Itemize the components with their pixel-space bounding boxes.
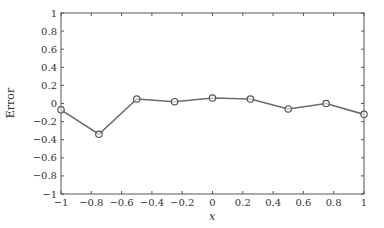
y-tick-label: 0.8 xyxy=(41,26,57,37)
data-point-marker xyxy=(323,100,329,106)
x-tick-label: −0.4 xyxy=(140,197,164,208)
x-axis-ticks: −1−0.8−0.6−0.4−0.200.20.40.60.81 xyxy=(54,13,368,208)
data-point-marker xyxy=(96,131,102,137)
y-tick-label: 0.4 xyxy=(41,62,57,73)
x-axis-label: x xyxy=(209,210,216,223)
data-point-marker xyxy=(209,95,215,101)
plot-frame xyxy=(61,13,364,194)
x-tick-label: 0.8 xyxy=(326,197,342,208)
x-tick-label: 0 xyxy=(209,197,215,208)
y-tick-label: 0.6 xyxy=(41,44,57,55)
data-point-marker xyxy=(134,96,140,102)
y-tick-label: 0.2 xyxy=(41,80,57,91)
y-tick-label: −0.8 xyxy=(33,170,57,181)
x-tick-label: −0.8 xyxy=(79,197,103,208)
y-tick-label: −0.4 xyxy=(33,134,57,145)
error-line-chart: −1−0.8−0.6−0.4−0.200.20.40.60.81 10.80.6… xyxy=(0,0,384,228)
data-point-marker xyxy=(171,98,177,104)
y-axis-label: Error xyxy=(4,87,17,118)
y-tick-label: −0.2 xyxy=(33,116,57,127)
x-tick-label: 0.4 xyxy=(265,197,281,208)
data-point-marker xyxy=(247,96,253,102)
y-tick-label: 0 xyxy=(51,98,57,109)
x-tick-label: 0.2 xyxy=(235,197,251,208)
y-axis-ticks: 10.80.60.40.20−0.2−0.4−0.6−0.8−1 xyxy=(33,8,364,200)
x-tick-label: −0.2 xyxy=(170,197,194,208)
y-tick-label: 1 xyxy=(51,8,57,19)
series-line xyxy=(61,98,364,134)
data-point-marker xyxy=(361,111,367,117)
plot-border xyxy=(61,13,364,194)
x-tick-label: 0.6 xyxy=(295,197,311,208)
x-tick-label: 1 xyxy=(361,197,367,208)
error-series xyxy=(58,95,367,138)
data-point-marker xyxy=(285,106,291,112)
data-point-marker xyxy=(58,107,64,113)
y-tick-label: −0.6 xyxy=(33,152,57,163)
y-tick-label: −1 xyxy=(42,189,57,200)
x-tick-label: −0.6 xyxy=(109,197,133,208)
